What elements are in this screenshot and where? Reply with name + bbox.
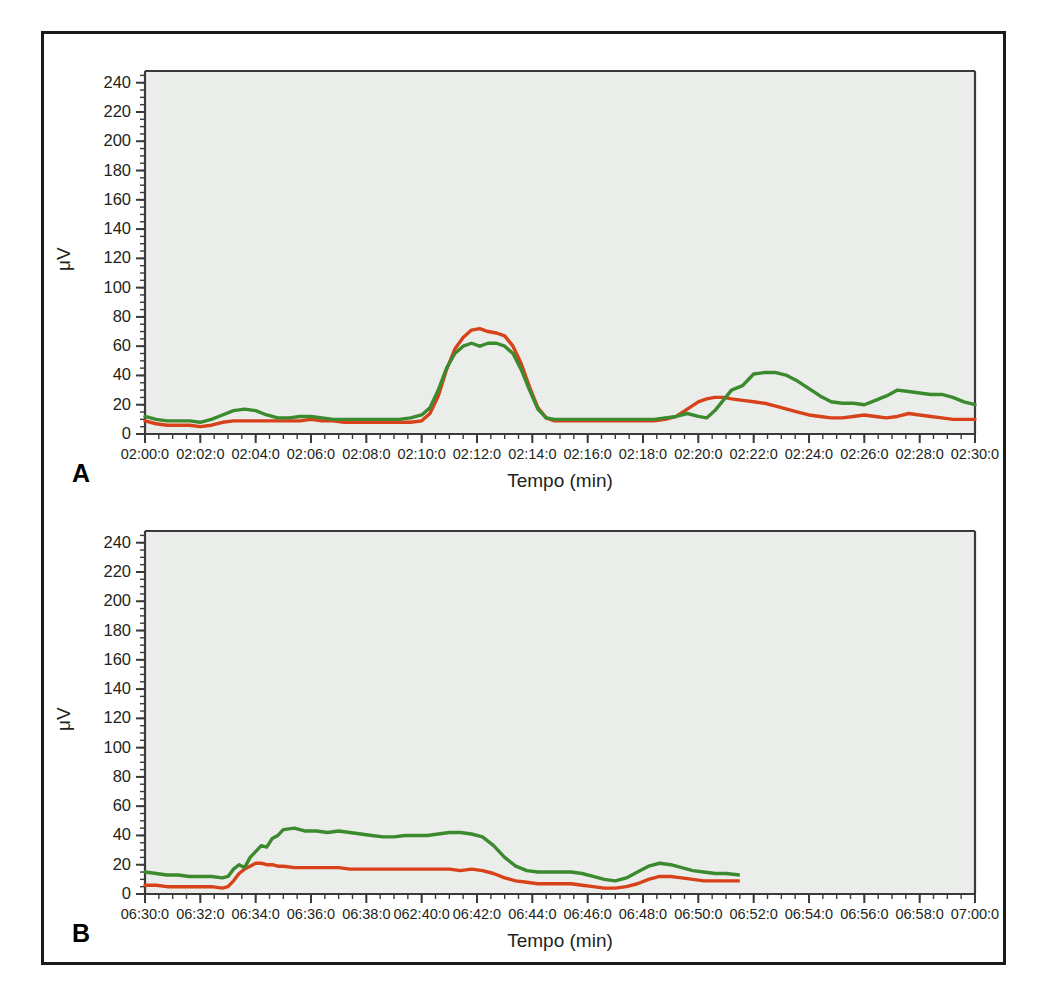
chart-panel-a: A μV Tempo (min) 02040608010012014016018… xyxy=(44,34,1003,504)
y-tick-label: 160 xyxy=(85,190,131,209)
y-tick-label: 100 xyxy=(85,738,131,757)
y-tick-label: 40 xyxy=(85,365,131,384)
y-tick-label: 120 xyxy=(85,248,131,267)
y-tick-label: 160 xyxy=(85,650,131,669)
y-tick-label: 20 xyxy=(85,395,131,414)
plot-area-a xyxy=(44,34,1003,504)
x-tick-label: 07:00:0 xyxy=(935,906,1015,922)
y-tick-label: 20 xyxy=(85,855,131,874)
y-tick-label: 240 xyxy=(85,73,131,92)
y-tick-label: 220 xyxy=(85,562,131,581)
y-tick-label: 60 xyxy=(85,796,131,815)
y-tick-label: 200 xyxy=(85,131,131,150)
y-tick-label: 180 xyxy=(85,161,131,180)
y-tick-label: 0 xyxy=(85,424,131,443)
y-tick-label: 140 xyxy=(85,679,131,698)
y-tick-label: 60 xyxy=(85,336,131,355)
y-tick-label: 140 xyxy=(85,219,131,238)
y-tick-label: 100 xyxy=(85,278,131,297)
chart-panel-b: B μV Tempo (min) 02040608010012014016018… xyxy=(44,501,1003,962)
y-tick-label: 40 xyxy=(85,825,131,844)
y-tick-label: 180 xyxy=(85,621,131,640)
y-tick-label: 80 xyxy=(85,307,131,326)
y-tick-label: 80 xyxy=(85,767,131,786)
y-tick-label: 0 xyxy=(85,884,131,903)
y-tick-label: 120 xyxy=(85,708,131,727)
y-tick-label: 220 xyxy=(85,102,131,121)
figure-frame: A μV Tempo (min) 02040608010012014016018… xyxy=(41,31,1006,965)
y-tick-label: 200 xyxy=(85,591,131,610)
y-tick-label: 240 xyxy=(85,533,131,552)
x-tick-label: 02:30:0 xyxy=(935,446,1015,462)
plot-area-b xyxy=(44,501,1003,962)
